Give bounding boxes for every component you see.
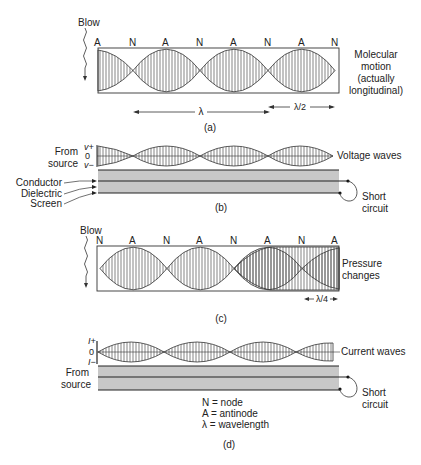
svg-text:N: N (331, 37, 338, 48)
short-circuit-label-b: Short circuit (362, 191, 388, 214)
svg-text:A: A (331, 235, 338, 246)
svg-text:v−: v− (84, 160, 94, 170)
svg-text:Short: Short (362, 191, 386, 202)
svg-text:longitudinal): longitudinal) (349, 85, 403, 96)
blow-arrowhead-icon (84, 283, 88, 288)
svg-text:From: From (55, 146, 78, 157)
legend-antinode: A = antinode (202, 408, 258, 419)
source-label-d: From source (61, 367, 91, 390)
voltage-waves-label: Voltage waves (337, 150, 402, 161)
svg-text:A: A (196, 235, 203, 246)
blow-arrow-icon (85, 236, 88, 283)
svg-text:motion: motion (361, 61, 391, 72)
blow-arrow-icon (84, 28, 87, 76)
svg-text:λ: λ (199, 106, 204, 117)
cable-d (98, 366, 339, 390)
svg-text:A: A (298, 37, 305, 48)
svg-text:Pressure: Pressure (342, 258, 382, 269)
svg-text:N: N (230, 235, 237, 246)
svg-text:source: source (61, 379, 91, 390)
short-circuit-b (338, 179, 357, 201)
voltage-axis-labels: v+ 0 v− (84, 142, 94, 170)
svg-text:Conductor: Conductor (16, 177, 63, 188)
svg-text:Short: Short (362, 387, 386, 398)
svg-text:A: A (94, 37, 101, 48)
short-circuit-d (338, 375, 357, 397)
blow-label: Blow (78, 17, 100, 28)
svg-text:λ/2: λ/2 (294, 102, 306, 112)
caption-d: (d) (223, 439, 235, 450)
current-waves-label: Current waves (341, 346, 405, 357)
svg-text:(actually: (actually (357, 73, 394, 84)
short-circuit-label-d: Short circuit (362, 387, 388, 410)
svg-text:Molecular: Molecular (354, 49, 398, 60)
svg-text:I+: I+ (88, 336, 96, 346)
blow-arrowhead-icon (83, 76, 87, 81)
svg-text:A: A (230, 37, 237, 48)
caption-a: (a) (204, 122, 216, 133)
svg-text:N: N (96, 235, 103, 246)
svg-text:N: N (196, 37, 203, 48)
standing-waves-diagram: Blow A N A N A N A N Molecular motion (a… (0, 0, 421, 465)
svg-text:Screen: Screen (30, 198, 62, 209)
svg-text:From: From (66, 367, 89, 378)
panel-c: Blow N A N A N A N A Pressure changes (80, 225, 382, 324)
svg-text:circuit: circuit (362, 203, 388, 214)
svg-text:I−: I− (88, 357, 96, 367)
quarter-wavelength-dimension: λ/4 (304, 294, 338, 304)
legend: N = node A = antinode λ = wavelength (202, 397, 269, 430)
current-wave-envelope (98, 342, 333, 362)
svg-text:A: A (264, 235, 271, 246)
panel-a: Blow A N A N A N A N Molecular motion (a… (78, 17, 403, 133)
node-labels-a: A N A N A N A N (94, 37, 338, 48)
panel-b: From source v+ 0 v− Voltage waves Short … (16, 142, 402, 214)
legend-node: N = node (202, 397, 243, 408)
pressure-changes-label: Pressure changes (342, 258, 382, 281)
source-label-b: From source (48, 146, 78, 169)
svg-text:N: N (298, 235, 305, 246)
legend-wavelength: λ = wavelength (202, 419, 269, 430)
svg-text:changes: changes (342, 270, 380, 281)
current-axis-labels: I+ 0 I− (88, 336, 96, 367)
panel-d: I+ 0 I− Current waves From source Short … (61, 336, 405, 450)
caption-b: (b) (215, 202, 227, 213)
node-labels-c: N A N A N A N A (96, 235, 338, 246)
svg-text:N: N (129, 37, 136, 48)
svg-text:λ/4: λ/4 (316, 294, 328, 304)
voltage-wave-envelope (98, 146, 333, 166)
svg-text:A: A (129, 235, 136, 246)
svg-text:0: 0 (89, 347, 94, 357)
caption-c: (c) (215, 313, 227, 324)
svg-text:A: A (162, 37, 169, 48)
svg-text:circuit: circuit (362, 399, 388, 410)
wavelength-dimension: λ (133, 106, 270, 117)
half-wavelength-dimension: λ/2 (268, 102, 335, 112)
molecular-motion-label: Molecular motion (actually longitudinal) (349, 49, 403, 96)
svg-text:N: N (163, 235, 170, 246)
cable-layer-labels: Conductor Dielectric Screen (16, 177, 97, 209)
wave-envelope-a (98, 49, 335, 92)
svg-text:source: source (48, 158, 78, 169)
svg-text:N: N (264, 37, 271, 48)
